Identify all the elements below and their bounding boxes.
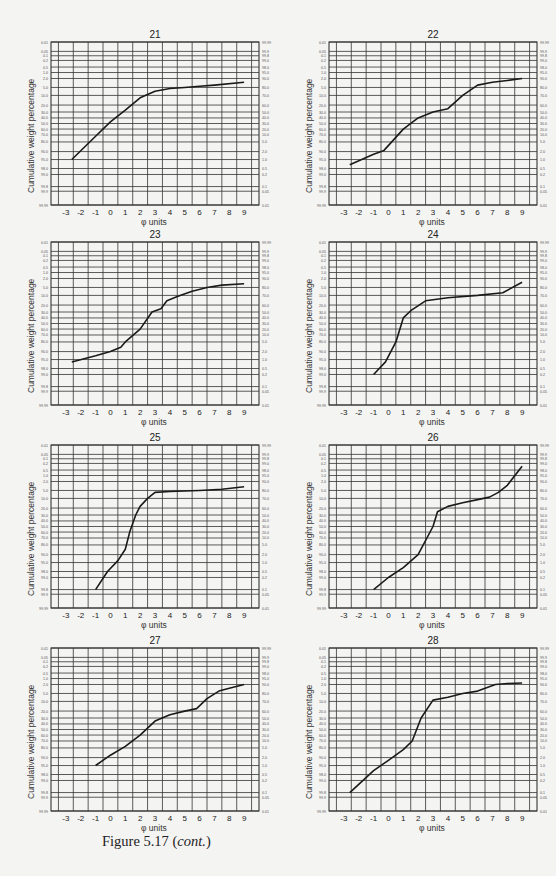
svg-text:1.0: 1.0 (262, 358, 267, 362)
svg-text:30.0: 30.0 (319, 514, 326, 518)
svg-text:0.1: 0.1 (43, 254, 48, 258)
svg-text:90.0: 90.0 (319, 553, 326, 557)
svg-text:99.8: 99.8 (262, 54, 269, 58)
svg-text:5.0: 5.0 (321, 286, 326, 290)
svg-text:70.0: 70.0 (319, 333, 326, 337)
chart-panel-23: 0.0199.990.0599.90.199.80.299.00.598.01.… (0, 200, 278, 405)
svg-text:90.0: 90.0 (262, 77, 269, 81)
svg-text:5: 5 (460, 814, 465, 823)
svg-text:80.0: 80.0 (262, 692, 269, 696)
svg-text:0: 0 (108, 814, 113, 823)
svg-text:1.0: 1.0 (321, 474, 326, 478)
svg-text:95.0: 95.0 (319, 561, 326, 565)
probability-plot: 0.0199.990.0599.90.199.80.299.00.598.01.… (278, 0, 556, 225)
svg-text:1.0: 1.0 (540, 764, 545, 768)
svg-text:0.5: 0.5 (262, 773, 267, 777)
svg-text:99.9: 99.9 (41, 593, 48, 597)
svg-text:10.0: 10.0 (540, 333, 547, 337)
svg-text:5.0: 5.0 (262, 340, 267, 344)
svg-text:1.0: 1.0 (321, 677, 326, 681)
svg-text:-1: -1 (370, 814, 378, 823)
chart-title: 27 (140, 635, 170, 646)
probability-plot: 0.0199.990.0599.90.199.80.299.00.598.01.… (278, 606, 556, 831)
svg-text:40.0: 40.0 (41, 722, 48, 726)
svg-text:-1: -1 (92, 814, 100, 823)
caption-italic: cont. (177, 833, 206, 849)
svg-text:60.0: 60.0 (262, 507, 269, 511)
svg-text:5.0: 5.0 (43, 286, 48, 290)
cumulative-curve (72, 82, 244, 159)
svg-text:50.0: 50.0 (262, 111, 269, 115)
svg-text:5.0: 5.0 (43, 489, 48, 493)
svg-text:20.0: 20.0 (319, 304, 326, 308)
svg-text:50.0: 50.0 (262, 717, 269, 721)
svg-text:0.05: 0.05 (262, 190, 269, 194)
y-axis-label: Cumulative weight percentage (304, 79, 314, 193)
svg-text:60.0: 60.0 (262, 710, 269, 714)
svg-text:50.0: 50.0 (319, 122, 326, 126)
svg-text:98.0: 98.0 (262, 672, 269, 676)
svg-text:10.0: 10.0 (540, 133, 547, 137)
svg-text:1.0: 1.0 (262, 764, 267, 768)
svg-text:0.05: 0.05 (540, 593, 547, 597)
svg-text:99.8: 99.8 (41, 385, 48, 389)
svg-text:20.0: 20.0 (262, 128, 269, 132)
svg-text:30.0: 30.0 (540, 525, 547, 529)
svg-text:0.2: 0.2 (43, 259, 48, 263)
chart-panel-26: 0.0199.990.0599.90.199.80.299.00.598.01.… (278, 403, 556, 608)
svg-text:95.0: 95.0 (41, 158, 48, 162)
svg-text:60.0: 60.0 (41, 128, 48, 132)
y-axis-label: Cumulative weight percentage (26, 685, 36, 799)
svg-text:2: 2 (416, 814, 421, 823)
svg-text:99.9: 99.9 (41, 390, 48, 394)
svg-text:99.8: 99.8 (540, 660, 547, 664)
svg-text:2.0: 2.0 (540, 553, 545, 557)
svg-text:99.99: 99.99 (262, 241, 271, 245)
svg-text:0.5: 0.5 (43, 469, 48, 473)
svg-text:0.5: 0.5 (43, 672, 48, 676)
svg-text:1: 1 (401, 814, 406, 823)
svg-text:80.0: 80.0 (319, 746, 326, 750)
chart-panel-22: 0.0199.990.0599.90.199.80.299.00.598.01.… (278, 0, 556, 205)
svg-text:30.0: 30.0 (262, 322, 269, 326)
svg-text:80.0: 80.0 (262, 86, 269, 90)
x-axis-label: φ units (419, 823, 445, 833)
svg-text:99.0: 99.0 (41, 779, 48, 783)
svg-text:0.2: 0.2 (43, 462, 48, 466)
svg-text:0.1: 0.1 (540, 385, 545, 389)
svg-text:10.0: 10.0 (319, 94, 326, 98)
svg-text:90.0: 90.0 (41, 553, 48, 557)
svg-text:2.0: 2.0 (262, 350, 267, 354)
svg-text:80.0: 80.0 (540, 286, 547, 290)
svg-text:20.0: 20.0 (540, 128, 547, 132)
svg-text:40.0: 40.0 (540, 316, 547, 320)
svg-text:40.0: 40.0 (41, 519, 48, 523)
svg-text:5.0: 5.0 (262, 140, 267, 144)
svg-text:2.0: 2.0 (43, 683, 48, 687)
y-axis-label: Cumulative weight percentage (26, 79, 36, 193)
svg-text:0.01: 0.01 (319, 647, 326, 651)
chart-title: 21 (140, 29, 170, 40)
svg-text:50.0: 50.0 (41, 525, 48, 529)
svg-text:10.0: 10.0 (319, 294, 326, 298)
svg-text:70.0: 70.0 (540, 94, 547, 98)
svg-text:98.0: 98.0 (319, 167, 326, 171)
svg-text:50.0: 50.0 (319, 728, 326, 732)
svg-text:0.05: 0.05 (262, 593, 269, 597)
svg-text:90.0: 90.0 (262, 277, 269, 281)
svg-text:99.0: 99.0 (319, 373, 326, 377)
svg-text:1.0: 1.0 (540, 158, 545, 162)
svg-text:0.5: 0.5 (43, 66, 48, 70)
svg-text:98.0: 98.0 (41, 167, 48, 171)
caption-text: Figure 5.17 ( (102, 833, 177, 849)
svg-text:80.0: 80.0 (41, 543, 48, 547)
svg-text:20.0: 20.0 (41, 104, 48, 108)
svg-text:30.0: 30.0 (540, 322, 547, 326)
svg-text:2.0: 2.0 (321, 277, 326, 281)
probability-plot: 0.0199.990.0599.90.199.80.299.00.598.01.… (278, 403, 556, 628)
svg-text:99.0: 99.0 (319, 779, 326, 783)
svg-text:90.0: 90.0 (262, 480, 269, 484)
svg-text:40.0: 40.0 (319, 722, 326, 726)
svg-text:0.2: 0.2 (262, 779, 267, 783)
svg-text:9: 9 (520, 814, 525, 823)
